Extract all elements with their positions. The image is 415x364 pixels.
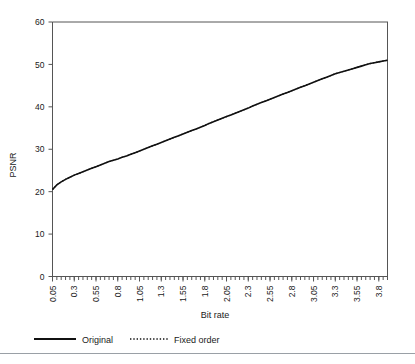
y-tick-label: 10 xyxy=(35,229,45,239)
x-tick-label: 3.8 xyxy=(374,285,384,297)
y-tick-label: 20 xyxy=(35,187,45,197)
x-tick-label: 0.8 xyxy=(113,285,123,297)
x-tick-label: 0.55 xyxy=(91,285,101,302)
psnr-vs-bitrate-chart: 0102030405060 PSNR 0.050.30.550.81.051.3… xyxy=(0,0,415,364)
x-tick-label: 2.55 xyxy=(265,285,275,302)
x-axis-title: Bit rate xyxy=(201,310,230,320)
x-tick-label: 2.05 xyxy=(222,285,232,302)
y-tick-label: 0 xyxy=(40,272,45,282)
x-tick-label: 3.3 xyxy=(330,285,340,297)
legend-label-original: Original xyxy=(82,335,113,345)
data-series-layer xyxy=(53,60,388,189)
y-tick-label: 30 xyxy=(35,144,45,154)
x-tick-label: 3.05 xyxy=(309,285,319,302)
plot-frame xyxy=(53,22,389,277)
x-tick-label: 1.8 xyxy=(200,285,210,297)
x-tick-label: 3.55 xyxy=(352,285,362,302)
x-axis: 0.050.30.550.81.051.31.551.82.052.32.552… xyxy=(48,277,388,303)
series-line-original xyxy=(53,60,388,189)
x-tick-label: 1.3 xyxy=(156,285,166,297)
x-tick-label: 2.8 xyxy=(287,285,297,297)
series-line-fixed-order xyxy=(53,60,388,189)
x-tick-label: 0.05 xyxy=(48,285,58,302)
legend-label-fixed-order: Fixed order xyxy=(174,335,220,345)
x-tick-label: 0.3 xyxy=(69,285,79,297)
chart-figure: 0102030405060 PSNR 0.050.30.550.81.051.3… xyxy=(0,0,415,364)
x-tick-label: 1.05 xyxy=(135,285,145,302)
chart-legend: Original Fixed order xyxy=(34,335,220,345)
x-tick-label: 1.55 xyxy=(178,285,188,302)
y-tick-label: 40 xyxy=(35,102,45,112)
y-tick-label: 60 xyxy=(35,17,45,27)
x-tick-label: 2.3 xyxy=(243,285,253,297)
y-tick-label: 50 xyxy=(35,60,45,70)
y-axis: 0102030405060 xyxy=(35,17,52,282)
y-axis-title: PSNR xyxy=(8,152,18,178)
